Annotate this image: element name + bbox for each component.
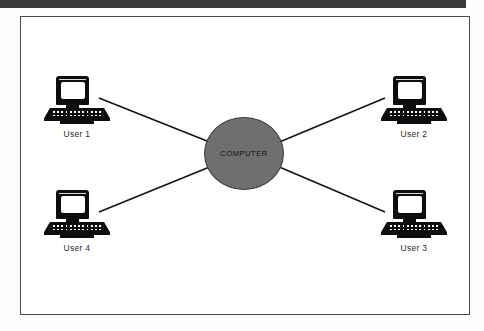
desktop-computer-icon — [381, 76, 447, 128]
node-user-4[interactable]: User 4 — [44, 190, 110, 253]
keyboard-row-top — [390, 111, 438, 113]
node-user-1[interactable]: User 1 — [44, 76, 110, 139]
monitor-top-groove — [59, 79, 86, 80]
keyboard-row-bottom — [390, 229, 438, 231]
node-label-user-1: User 1 — [44, 129, 110, 139]
keyboard-row-bottom — [390, 115, 438, 117]
monitor-top-groove — [396, 193, 423, 194]
node-label-user-4: User 4 — [44, 243, 110, 253]
keyboard-row-top — [53, 111, 101, 113]
node-user-3[interactable]: User 3 — [381, 190, 447, 253]
desktop-computer-icon — [381, 190, 447, 242]
monitor-top-groove — [396, 79, 423, 80]
desktop-computer-icon — [44, 76, 110, 128]
hub-label: COMPUTER — [220, 149, 267, 158]
keyboard-row-top — [390, 225, 438, 227]
monitor-screen — [61, 196, 85, 213]
scanned-page: COMPUTER — [0, 0, 484, 331]
keyboard-base — [397, 121, 431, 124]
monitor-bezel — [56, 190, 89, 219]
node-label-user-2: User 2 — [381, 129, 447, 139]
monitor-top-groove — [59, 193, 86, 194]
keyboard — [44, 222, 110, 235]
node-label-user-3: User 3 — [381, 243, 447, 253]
monitor-screen — [61, 82, 85, 99]
monitor-bezel — [56, 76, 89, 105]
hub-computer-node[interactable]: COMPUTER — [204, 117, 284, 190]
monitor-screen — [398, 82, 422, 99]
link-user3-hub — [277, 166, 385, 212]
node-user-2[interactable]: User 2 — [381, 76, 447, 139]
link-user2-hub — [277, 98, 385, 143]
network-diagram: COMPUTER — [0, 0, 484, 331]
desktop-computer-icon — [44, 190, 110, 242]
keyboard-base — [60, 121, 94, 124]
keyboard-base — [60, 235, 94, 238]
monitor-bezel — [393, 190, 426, 219]
keyboard — [381, 108, 447, 121]
keyboard-base — [397, 235, 431, 238]
keyboard-row-bottom — [53, 229, 101, 231]
link-user4-hub — [99, 166, 212, 212]
keyboard — [44, 108, 110, 121]
monitor-bezel — [393, 76, 426, 105]
keyboard-row-top — [53, 225, 101, 227]
link-user1-hub — [99, 98, 212, 143]
keyboard-row-bottom — [53, 115, 101, 117]
monitor-screen — [398, 196, 422, 213]
keyboard — [381, 222, 447, 235]
